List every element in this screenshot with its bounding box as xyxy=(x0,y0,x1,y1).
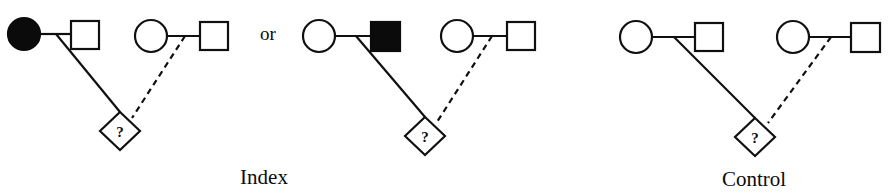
offspring-unknown-sex-label: ? xyxy=(751,130,759,146)
male-square-filled-index-right xyxy=(371,22,400,51)
male-square-open-index-right-partner xyxy=(507,22,535,50)
female-circle-open-control-right xyxy=(777,21,809,53)
male-square-open-control-left xyxy=(695,23,723,51)
female-circle-open-index-left-partner xyxy=(135,20,167,52)
pedigree-unit-index-right-partner xyxy=(437,20,535,122)
pedigree-unit-index-right: ? xyxy=(303,20,445,155)
group-caption-index: Index xyxy=(240,165,288,189)
female-circle-open-control-left xyxy=(620,21,652,53)
pedigree-group-layer: ??? xyxy=(8,18,880,156)
pedigree-unit-index-left-partner xyxy=(132,20,228,118)
female-circle-filled-index-left xyxy=(8,18,40,50)
pedigree-unit-index-left: ? xyxy=(8,18,140,150)
female-circle-open-index-right xyxy=(303,20,335,52)
offspring-unknown-sex-label: ? xyxy=(421,129,429,145)
conjunction-or-label: or xyxy=(260,23,277,44)
male-square-open-index-left-partner xyxy=(200,22,228,50)
pedigree-unit-control-right xyxy=(768,21,880,123)
group-caption-control: Control xyxy=(722,167,786,191)
pedigree-figure: ??? orIndexControl xyxy=(0,0,890,194)
female-circle-open-index-right-partner xyxy=(441,20,473,52)
pedigree-unit-control-left: ? xyxy=(620,21,775,156)
male-square-open-control-right xyxy=(851,23,880,52)
offspring-unknown-sex-label: ? xyxy=(116,124,124,140)
pedigree-canvas: ??? orIndexControl xyxy=(0,0,890,194)
male-square-open-index-left xyxy=(71,21,99,49)
